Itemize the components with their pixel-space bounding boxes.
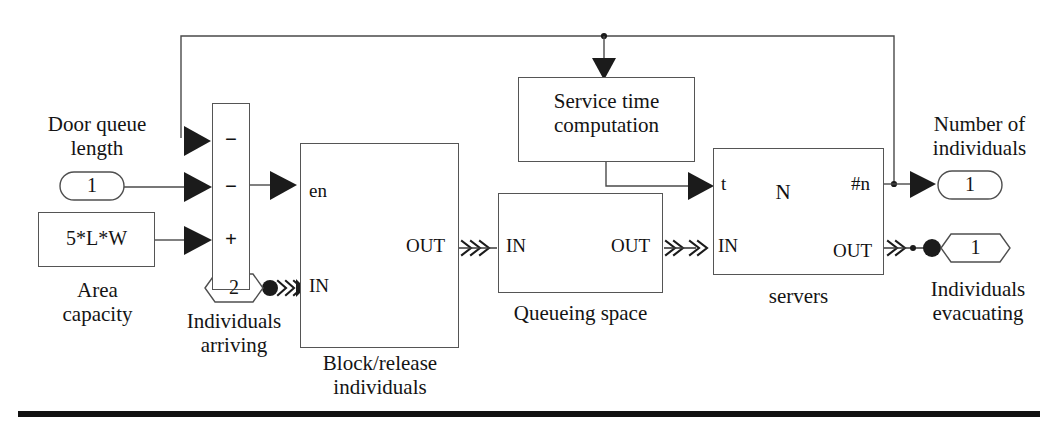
area-capacity-label: Area capacity	[35, 279, 160, 326]
entity-sink-dot	[923, 239, 941, 257]
servers-in-port: IN	[718, 235, 738, 257]
sum-sign-2: −	[218, 174, 244, 199]
servers-out-port: OUT	[833, 240, 872, 262]
entity-source-dot	[262, 280, 278, 296]
door-queue-value: 1	[60, 174, 124, 196]
queueing-space-out-port: OUT	[611, 235, 650, 257]
number-of-individuals-label: Number of individuals	[912, 113, 1047, 160]
door-queue-length-label: Door queue length	[22, 113, 172, 160]
servers-icon-label: N	[766, 180, 800, 205]
service-time-output-wire	[606, 162, 690, 186]
individuals-arriving-label: Individuals arriving	[170, 310, 298, 357]
entity-chevron-1	[278, 281, 286, 295]
sum-sign-3: +	[218, 227, 244, 252]
servers-label: servers	[713, 285, 884, 309]
block-release-in-port: IN	[309, 275, 329, 297]
number-display-arrow	[910, 171, 936, 198]
sum-input3-arrow	[184, 226, 212, 255]
block-release-label: Block/release individuals	[310, 352, 450, 399]
number-of-individuals-value: 1	[938, 173, 1002, 195]
block-release-enable-port: en	[309, 180, 327, 202]
individuals-evacuating-label: Individuals evacuating	[908, 278, 1048, 325]
queueing-space-in-port: IN	[506, 235, 526, 257]
bottom-divider	[18, 411, 1040, 417]
individuals-arriving-value: 2	[205, 276, 263, 298]
servers-n-port: #n	[851, 173, 870, 195]
service-time-computation-label: Service time computation	[518, 90, 695, 137]
servers-t-port: t	[721, 173, 726, 195]
area-capacity-value: 5*L*W	[38, 227, 155, 249]
out-junction-dot	[910, 245, 916, 251]
servers-t-arrow	[688, 172, 714, 200]
block-enable-arrow	[270, 171, 297, 200]
sum-sign-1: −	[218, 127, 244, 152]
sum-input1-arrow	[184, 126, 211, 156]
queueing-space-label: Queueing space	[498, 302, 663, 326]
individuals-evacuating-value: 1	[941, 236, 1010, 258]
sum-input2-arrow	[184, 172, 212, 202]
diagram-canvas: 1 5*L*W 2 1 1 − − + en IN OUT IN OUT t I…	[0, 0, 1060, 429]
block-release-out-port: OUT	[406, 235, 445, 257]
